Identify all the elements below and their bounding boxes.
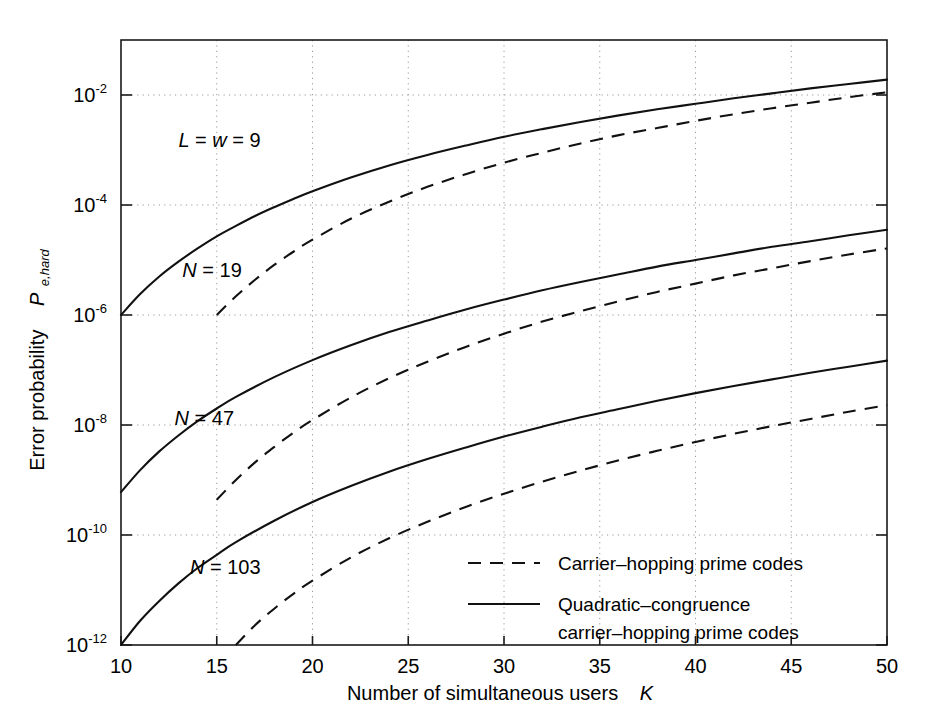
x-axis-tick-labels: 101520253035404550 xyxy=(110,655,898,677)
annotation-part-1: = xyxy=(190,129,213,151)
y-tick-label: 10-8 xyxy=(73,411,107,436)
legend-label-solid-line1: Quadratic–congruence xyxy=(558,594,750,615)
y-tick-exponent: -4 xyxy=(95,191,107,206)
y-tick-mantissa: 10 xyxy=(73,304,95,326)
x-tick-label: 50 xyxy=(876,655,898,677)
annotation-part-0: N xyxy=(190,556,205,578)
x-tick-label: 45 xyxy=(780,655,802,677)
legend-label-solid-line2: carrier–hopping prime codes xyxy=(558,622,799,643)
annotation-part-0: N xyxy=(175,407,190,429)
y-tick-mantissa: 10 xyxy=(73,84,95,106)
x-axis-title-symbol: K xyxy=(640,682,655,704)
y-tick-exponent: -10 xyxy=(88,521,107,536)
annotation-part-1: = 19 xyxy=(197,259,242,281)
y-tick-exponent: -12 xyxy=(88,631,107,646)
x-axis-title: Number of simultaneous users K xyxy=(347,682,655,704)
y-tick-mantissa: 10 xyxy=(66,634,88,656)
y-tick-mantissa: 10 xyxy=(73,194,95,216)
y-tick-exponent: -8 xyxy=(95,411,107,426)
annotation-n-19: N = 19 xyxy=(182,259,242,281)
y-tick-label: 10-4 xyxy=(73,191,107,216)
x-tick-label: 15 xyxy=(206,655,228,677)
x-tick-label: 40 xyxy=(684,655,706,677)
y-tick-label: 10-6 xyxy=(73,301,107,326)
annotation-n-47: N = 47 xyxy=(175,407,235,429)
y-tick-exponent: -6 xyxy=(95,301,107,316)
svg-text:Error probability P: Error probability P e,hard xyxy=(26,248,52,470)
x-tick-label: 30 xyxy=(493,655,515,677)
y-tick-label: 10-2 xyxy=(73,81,107,106)
x-axis-title-main: Number of simultaneous users xyxy=(347,682,618,704)
legend-label-dashed: Carrier–hopping prime codes xyxy=(558,553,803,574)
annotation-part-0: L xyxy=(178,129,189,151)
annotation-n-103: N = 103 xyxy=(190,556,261,578)
y-tick-mantissa: 10 xyxy=(66,524,88,546)
y-axis-title-symbol: P xyxy=(26,292,48,306)
annotation-part-0: N xyxy=(182,259,197,281)
svg-text:Number of simultaneous users: Number of simultaneous users K xyxy=(347,682,655,704)
y-tick-mantissa: 10 xyxy=(73,414,95,436)
x-tick-label: 25 xyxy=(397,655,419,677)
y-axis-title: Error probability P e,hard xyxy=(26,248,52,470)
annotation-part-1: = 103 xyxy=(204,556,260,578)
annotation-parameters: L = w = 9 xyxy=(178,129,260,151)
y-tick-exponent: -2 xyxy=(95,81,107,96)
figure-container: 101520253035404550 10-210-410-610-810-10… xyxy=(0,0,936,723)
x-tick-label: 35 xyxy=(589,655,611,677)
annotation-part-1: = 47 xyxy=(189,407,234,429)
y-axis-tick-labels: 10-210-410-610-810-1010-12 xyxy=(66,81,107,656)
x-tick-label: 20 xyxy=(301,655,323,677)
y-axis-title-subscript: e,hard xyxy=(37,248,52,286)
annotation-part-3: = 9 xyxy=(227,129,261,151)
y-axis-title-main: Error probability xyxy=(26,330,48,471)
y-tick-label: 10-10 xyxy=(66,521,107,546)
x-tick-label: 10 xyxy=(110,655,132,677)
error-probability-chart: 101520253035404550 10-210-410-610-810-10… xyxy=(0,0,936,723)
y-tick-label: 10-12 xyxy=(66,631,107,656)
